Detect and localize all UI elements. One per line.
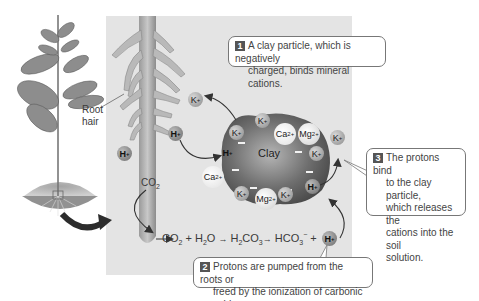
calcium-ion: Ca2+: [202, 166, 224, 188]
proton-ion: H+: [168, 126, 183, 141]
released-potassium-ion: K+: [330, 130, 345, 145]
magnesium-ion: Mg2+: [298, 123, 320, 145]
potassium-ion: K+: [309, 146, 324, 161]
proton-ion: H+: [322, 231, 337, 246]
step-number-badge: 1: [235, 41, 245, 51]
zoom-arrow: [62, 214, 104, 227]
clay-label: Clay: [258, 148, 280, 159]
callout-1: 1A clay particle, which is negatively ch…: [228, 36, 386, 67]
potassium-ion: K+: [229, 125, 244, 140]
carbonic-acid-equation: CO2 + H2O → H2CO3→ HCO3− +: [162, 231, 317, 246]
proton-ion-bound: H+: [220, 145, 235, 160]
callout-2: 2Protons are pumped from the roots or fr…: [193, 257, 373, 288]
root-hair-label-line1: Root: [82, 104, 103, 115]
callout-3: 3The protons bind to the clay particle, …: [366, 148, 466, 216]
proton-ion: H+: [117, 146, 132, 161]
root-co2-label: CO2: [141, 177, 160, 192]
potassium-ion: K+: [278, 187, 293, 202]
calcium-ion: Ca2+: [274, 123, 296, 145]
potassium-ion: K+: [234, 186, 249, 201]
potassium-ion: K+: [188, 92, 203, 107]
root-hair-label-line2: hair: [82, 116, 99, 127]
step-number-badge: 2: [200, 262, 210, 272]
step-number-badge: 3: [373, 153, 383, 163]
potassium-ion: K+: [255, 113, 270, 128]
proton-ion: H+: [305, 179, 320, 194]
magnesium-ion: Mg2+: [255, 188, 277, 210]
